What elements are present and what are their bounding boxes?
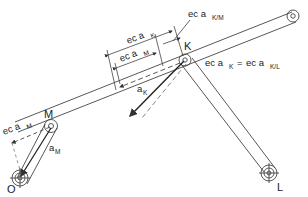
rocker-link-KL [179, 54, 275, 172]
point-label-L: L [277, 181, 283, 193]
svg-text:ec a: ec a [246, 57, 265, 68]
svg-text:ec a: ec a [118, 47, 139, 64]
svg-text:M: M [55, 148, 60, 155]
label-aM: a M [49, 142, 60, 155]
svg-text:ec a: ec a [1, 120, 22, 137]
svg-text:ec a: ec a [205, 57, 224, 68]
label-aK: a K [137, 83, 148, 96]
pivot-L-icon [259, 163, 279, 183]
svg-text:K: K [229, 63, 234, 70]
vector-aM [21, 128, 51, 176]
label-ec-aK-top: ec a K [125, 25, 157, 48]
point-label-O: O [7, 183, 16, 195]
svg-text:=: = [237, 57, 243, 68]
projection-line [12, 143, 20, 170]
svg-text:K: K [143, 89, 148, 96]
label-ec-aM-left: ec a M [1, 116, 33, 139]
point-label-K: K [184, 40, 192, 52]
label-ec-aKM: ec a K/M [188, 8, 224, 21]
svg-text:ec a: ec a [188, 8, 207, 19]
label-ecaK-equals-ecaKL: ec a K = ec a K/L [205, 57, 280, 70]
svg-text:ec a: ec a [125, 29, 146, 46]
coupler-link [15, 10, 299, 132]
svg-text:K/M: K/M [212, 14, 224, 21]
linkage-diagram: K M O L ec a K ec a M ec a K/M a K ec a … [0, 0, 308, 197]
svg-text:M: M [25, 122, 33, 130]
svg-text:K/L: K/L [270, 63, 280, 70]
component-ecaKL [142, 64, 186, 118]
point-label-M: M [44, 108, 53, 120]
label-ec-aM-top: ec a M [118, 43, 150, 66]
